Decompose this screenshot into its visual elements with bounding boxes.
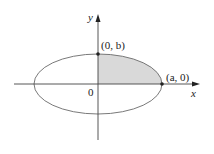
ellipse-diagram: y x 0 (0, b) (a, 0): [0, 0, 214, 154]
shaded-quadrant-region: [98, 54, 162, 84]
point-0-b-label: (0, b): [101, 39, 125, 52]
point-0-b: [96, 52, 100, 56]
x-axis-label: x: [190, 87, 196, 99]
point-a-0: [160, 82, 164, 86]
point-a-0-label: (a, 0): [166, 71, 190, 84]
y-axis-arrow-icon: [96, 14, 101, 22]
x-axis-arrow-icon: [192, 82, 200, 87]
origin-label: 0: [88, 86, 94, 98]
y-axis-label: y: [87, 11, 93, 23]
